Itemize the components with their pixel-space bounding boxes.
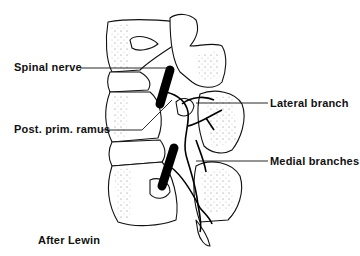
post-prim-ramus-label: Post. prim. ramus <box>14 123 110 135</box>
spinal-nerve-label: Spinal nerve <box>14 61 82 73</box>
credit-label: After Lewin <box>38 234 100 246</box>
medial-branches-label: Medial branches <box>270 155 359 167</box>
upper-spinal-nerve <box>160 70 170 104</box>
lateral-branch-label: Lateral branch <box>270 97 349 109</box>
